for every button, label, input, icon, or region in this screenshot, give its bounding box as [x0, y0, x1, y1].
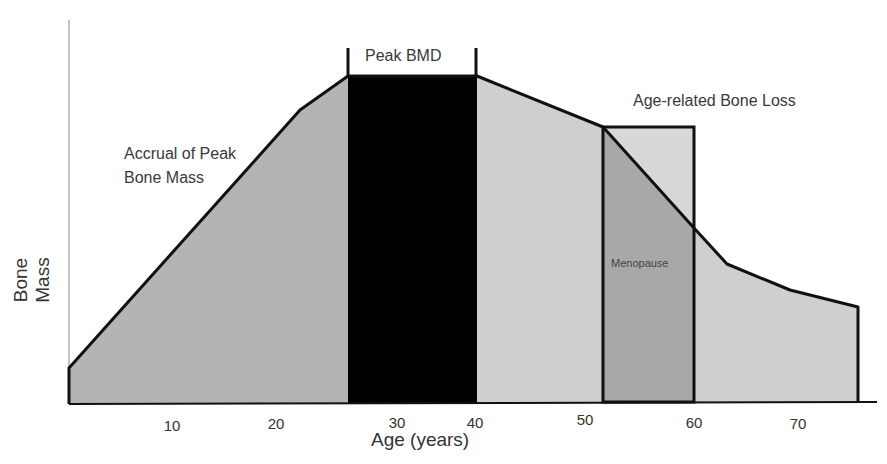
x-tick-10: 10	[164, 417, 181, 434]
accrual-label-line1: Accrual of Peak	[124, 142, 236, 166]
x-axis-label: Age (years)	[371, 429, 469, 451]
menopause-label: Menopause	[611, 257, 669, 269]
age-related-label: Age-related Bone Loss	[633, 92, 796, 110]
loss-region-early	[477, 76, 603, 402]
accrual-region	[69, 76, 348, 404]
accrual-label-line2: Bone Mass	[124, 166, 236, 190]
x-tick-60: 60	[686, 414, 703, 431]
x-tick-70: 70	[790, 415, 807, 432]
x-tick-50: 50	[577, 411, 594, 428]
chart-canvas	[0, 0, 887, 464]
x-tick-20: 20	[268, 415, 285, 432]
peak-bmd-region	[348, 75, 477, 404]
peak-bmd-label: Peak BMD	[365, 47, 441, 65]
y-axis-label: Bone Mass	[10, 235, 54, 325]
accrual-annotation: Accrual of Peak Bone Mass	[124, 142, 236, 190]
